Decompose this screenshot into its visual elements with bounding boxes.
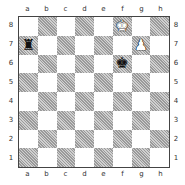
rank-label-left-8: 8 (6, 21, 16, 29)
square-a5[interactable] (19, 73, 38, 92)
rank-label-right-3: 3 (171, 116, 181, 124)
square-b1[interactable] (38, 148, 57, 167)
square-c2[interactable] (57, 130, 76, 149)
square-c3[interactable] (57, 111, 76, 130)
square-b5[interactable] (38, 73, 57, 92)
square-f7[interactable] (113, 36, 132, 55)
square-g4[interactable] (132, 92, 151, 111)
square-c1[interactable] (57, 148, 76, 167)
rank-label-right-1: 1 (171, 154, 181, 162)
black-rook-icon[interactable]: ♜ (22, 38, 35, 53)
square-f6[interactable]: ♚ (113, 55, 132, 74)
rank-label-right-7: 7 (171, 40, 181, 48)
square-c5[interactable] (57, 73, 76, 92)
square-d4[interactable] (75, 92, 94, 111)
square-c8[interactable] (57, 17, 76, 36)
file-label-top-e: e (94, 5, 113, 13)
square-h4[interactable] (150, 92, 169, 111)
square-d6[interactable] (75, 55, 94, 74)
square-a4[interactable] (19, 92, 38, 111)
square-g5[interactable] (132, 73, 151, 92)
square-c6[interactable] (57, 55, 76, 74)
file-label-top-a: a (18, 5, 37, 13)
square-a2[interactable] (19, 130, 38, 149)
square-e3[interactable] (94, 111, 113, 130)
file-label-bottom-b: b (37, 170, 56, 178)
square-e5[interactable] (94, 73, 113, 92)
file-label-top-f: f (113, 5, 132, 13)
square-g3[interactable] (132, 111, 151, 130)
square-e1[interactable] (94, 148, 113, 167)
square-c7[interactable] (57, 36, 76, 55)
square-g8[interactable] (132, 17, 151, 36)
file-label-bottom-a: a (18, 170, 37, 178)
file-label-top-b: b (37, 5, 56, 13)
square-d8[interactable] (75, 17, 94, 36)
rank-label-right-2: 2 (171, 135, 181, 143)
square-d5[interactable] (75, 73, 94, 92)
file-label-bottom-g: g (132, 170, 151, 178)
square-b8[interactable] (38, 17, 57, 36)
square-g1[interactable] (132, 148, 151, 167)
square-h3[interactable] (150, 111, 169, 130)
square-d7[interactable] (75, 36, 94, 55)
square-a6[interactable] (19, 55, 38, 74)
square-b4[interactable] (38, 92, 57, 111)
square-e6[interactable] (94, 55, 113, 74)
file-label-bottom-e: e (94, 170, 113, 178)
file-label-bottom-f: f (113, 170, 132, 178)
square-b3[interactable] (38, 111, 57, 130)
square-e2[interactable] (94, 130, 113, 149)
square-g6[interactable] (132, 55, 151, 74)
file-label-top-c: c (56, 5, 75, 13)
rank-label-left-6: 6 (6, 59, 16, 67)
square-a3[interactable] (19, 111, 38, 130)
square-g2[interactable] (132, 130, 151, 149)
white-pawn-icon[interactable]: ♟ (134, 38, 147, 53)
square-e7[interactable] (94, 36, 113, 55)
square-h1[interactable] (150, 148, 169, 167)
file-label-top-h: h (151, 5, 170, 13)
file-label-top-g: g (132, 5, 151, 13)
square-f8[interactable]: ♚ (113, 17, 132, 36)
rank-label-left-4: 4 (6, 97, 16, 105)
square-g7[interactable]: ♟ (132, 36, 151, 55)
square-h6[interactable] (150, 55, 169, 74)
square-d2[interactable] (75, 130, 94, 149)
square-h2[interactable] (150, 130, 169, 149)
square-f2[interactable] (113, 130, 132, 149)
square-b2[interactable] (38, 130, 57, 149)
rank-label-right-5: 5 (171, 78, 181, 86)
rank-label-left-2: 2 (6, 135, 16, 143)
file-label-bottom-d: d (75, 170, 94, 178)
square-f1[interactable] (113, 148, 132, 167)
square-e4[interactable] (94, 92, 113, 111)
square-f3[interactable] (113, 111, 132, 130)
rank-label-left-5: 5 (6, 78, 16, 86)
chess-board: ♚♜♟♚ (18, 16, 170, 168)
file-label-top-d: d (75, 5, 94, 13)
square-f5[interactable] (113, 73, 132, 92)
rank-label-right-6: 6 (171, 59, 181, 67)
square-f4[interactable] (113, 92, 132, 111)
square-b6[interactable] (38, 55, 57, 74)
square-h5[interactable] (150, 73, 169, 92)
square-d3[interactable] (75, 111, 94, 130)
file-label-bottom-c: c (56, 170, 75, 178)
square-b7[interactable] (38, 36, 57, 55)
rank-label-right-4: 4 (171, 97, 181, 105)
rank-label-left-7: 7 (6, 40, 16, 48)
square-a1[interactable] (19, 148, 38, 167)
square-a8[interactable] (19, 17, 38, 36)
square-d1[interactable] (75, 148, 94, 167)
file-label-bottom-h: h (151, 170, 170, 178)
rank-label-left-1: 1 (6, 154, 16, 162)
square-a7[interactable]: ♜ (19, 36, 38, 55)
square-h7[interactable] (150, 36, 169, 55)
white-king-icon[interactable]: ♚ (115, 19, 128, 34)
black-king-icon[interactable]: ♚ (115, 56, 128, 71)
square-h8[interactable] (150, 17, 169, 36)
square-c4[interactable] (57, 92, 76, 111)
square-e8[interactable] (94, 17, 113, 36)
rank-label-right-8: 8 (171, 21, 181, 29)
